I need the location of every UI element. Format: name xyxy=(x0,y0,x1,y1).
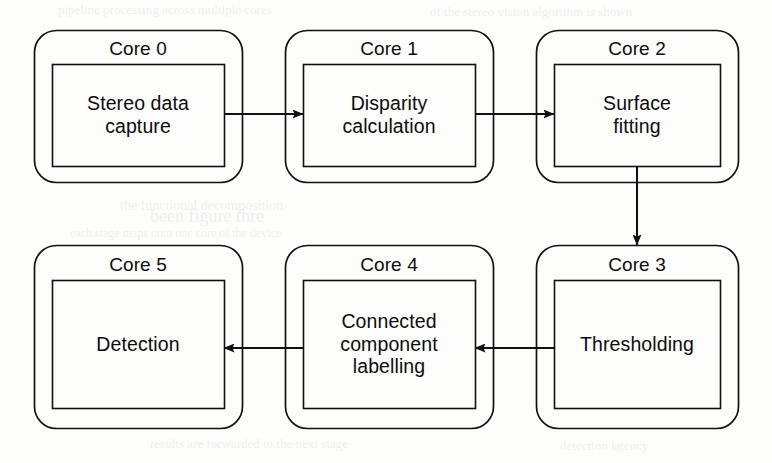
core-body-core2: Surfacefitting xyxy=(554,64,720,166)
core-node-core3[interactable]: Core 3Thresholding xyxy=(536,245,738,428)
core-title-core1: Core 1 xyxy=(285,38,493,60)
core-body-line: Detection xyxy=(52,333,224,356)
core-body-line: labelling xyxy=(303,355,475,378)
core-title-core3: Core 3 xyxy=(536,254,738,276)
core-body-line: Connected xyxy=(303,310,475,333)
core-body-line: fitting xyxy=(554,115,720,138)
core-body-line: component xyxy=(303,333,475,356)
core-node-core5[interactable]: Core 5Detection xyxy=(34,245,242,428)
core-body-line: Surface xyxy=(554,92,720,115)
core-body-line: calculation xyxy=(303,115,475,138)
core-body-core5: Detection xyxy=(52,280,224,408)
core-node-core0[interactable]: Core 0Stereo datacapture xyxy=(34,30,242,182)
core-title-core2: Core 2 xyxy=(536,38,738,60)
core-body-core0: Stereo datacapture xyxy=(52,64,224,166)
core-body-line: capture xyxy=(52,115,224,138)
core-node-core2[interactable]: Core 2Surfacefitting xyxy=(536,30,738,182)
core-node-core4[interactable]: Core 4Connectedcomponentlabelling xyxy=(285,245,493,428)
core-body-line: Stereo data xyxy=(52,92,224,115)
diagram-canvas: pipeline processing across multiple core… xyxy=(0,0,772,463)
core-body-core1: Disparitycalculation xyxy=(303,64,475,166)
core-body-core4: Connectedcomponentlabelling xyxy=(303,280,475,408)
core-title-core0: Core 0 xyxy=(34,38,242,60)
core-node-core1[interactable]: Core 1Disparitycalculation xyxy=(285,30,493,182)
core-body-core3: Thresholding xyxy=(554,280,720,408)
core-body-line: Thresholding xyxy=(554,333,720,356)
core-body-line: Disparity xyxy=(303,92,475,115)
core-title-core5: Core 5 xyxy=(34,254,242,276)
core-title-core4: Core 4 xyxy=(285,254,493,276)
